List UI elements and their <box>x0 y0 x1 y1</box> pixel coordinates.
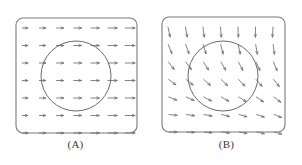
panel-a-diagram <box>0 0 151 138</box>
field-arrow <box>204 97 211 101</box>
field-arrow <box>273 45 275 55</box>
field-arrow <box>125 97 135 99</box>
field-arrow <box>239 80 245 86</box>
field-arrow <box>74 114 82 116</box>
field-arrow <box>22 27 28 29</box>
inclusion-circle <box>188 41 258 111</box>
field-arrow <box>186 80 193 85</box>
field-arrow <box>39 132 45 134</box>
field-arrow <box>125 44 135 46</box>
field-arrow <box>57 97 64 99</box>
field-arrow <box>74 97 82 99</box>
field-arrow <box>108 114 117 116</box>
field-arrow <box>204 115 212 117</box>
panel-a: (A) <box>0 0 151 165</box>
field-arrow <box>272 27 274 37</box>
field-arrow <box>91 62 99 64</box>
field-arrow <box>22 114 28 116</box>
field-arrow <box>57 27 64 29</box>
field-arrow <box>168 62 174 69</box>
field-arrow <box>108 79 117 81</box>
field-arrow <box>186 97 194 100</box>
panel-b-caption: (B) <box>151 138 302 151</box>
field-arrow <box>108 27 117 29</box>
field-arrow <box>22 62 28 64</box>
field-arrow <box>91 79 99 81</box>
field-arrow <box>22 79 28 81</box>
field-arrow <box>256 45 258 54</box>
inclusion-circle <box>41 41 111 111</box>
field-arrow <box>221 45 224 54</box>
field-arrow <box>238 62 242 70</box>
field-arrow <box>274 80 280 87</box>
field-arrow <box>39 79 45 81</box>
field-arrow <box>125 62 135 64</box>
field-arrow <box>39 114 45 116</box>
field-arrow <box>108 132 117 134</box>
field-arrow <box>221 80 227 86</box>
field-arrow <box>74 132 82 134</box>
field-arrow <box>91 114 99 116</box>
field-arrow <box>186 45 189 54</box>
field-arrow <box>221 62 226 70</box>
field-arrow <box>169 114 177 116</box>
field-arrow <box>125 132 135 134</box>
field-arrow <box>254 27 256 37</box>
field-arrow <box>186 27 188 37</box>
field-arrow <box>221 97 228 101</box>
field-arrow <box>168 45 172 54</box>
field-arrow <box>74 44 82 46</box>
field-arrow <box>187 114 195 116</box>
field-arrow <box>22 44 28 46</box>
field-arrow <box>239 115 247 118</box>
field-arrow <box>57 114 64 116</box>
field-arrow <box>39 62 45 64</box>
field-arrow <box>169 131 177 133</box>
field-arrow <box>125 114 135 116</box>
field-arrow <box>22 132 28 134</box>
field-arrow <box>168 27 171 37</box>
field-arrow <box>57 62 64 64</box>
field-arrow <box>91 132 99 134</box>
field-arrow <box>22 97 28 99</box>
field-arrow <box>203 27 205 37</box>
field-arrow <box>220 27 222 37</box>
field-arrow <box>91 97 99 99</box>
panel-b: (B) <box>151 0 302 165</box>
field-arrow <box>274 97 281 102</box>
field-arrow <box>273 62 277 70</box>
figure-container: (A) (B) <box>0 0 302 165</box>
field-arrow <box>274 115 281 118</box>
field-arrow <box>91 27 99 29</box>
field-arrow <box>108 44 117 46</box>
field-arrow <box>256 97 263 102</box>
field-arrow <box>57 132 64 134</box>
field-arrow <box>125 27 135 29</box>
field-arrow <box>39 44 45 46</box>
field-arrow <box>39 27 45 29</box>
field-arrow <box>125 79 135 81</box>
field-arrow <box>108 62 117 64</box>
field-arrow <box>57 79 64 81</box>
field-arrow <box>39 97 45 99</box>
panel-b-diagram <box>151 0 302 138</box>
field-arrow <box>257 115 265 118</box>
field-arrow <box>222 115 230 117</box>
field-arrow <box>108 97 117 99</box>
field-arrow <box>169 97 177 100</box>
field-arrow <box>239 97 246 101</box>
field-arrow <box>74 27 82 29</box>
field-arrow <box>203 62 208 70</box>
field-arrow <box>237 27 239 37</box>
field-arrow <box>169 80 176 85</box>
field-arrow <box>74 79 82 81</box>
panel-a-caption: (A) <box>0 138 151 151</box>
field-arrow <box>74 62 82 64</box>
field-arrow <box>204 80 211 86</box>
